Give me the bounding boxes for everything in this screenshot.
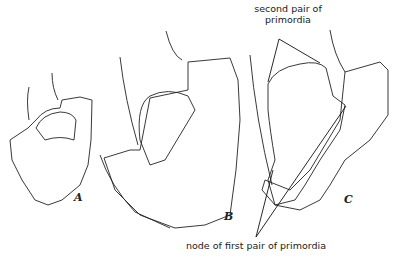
panel-c-drawing	[250, 30, 388, 210]
annotation-second-pair-line1: second pair of	[246, 3, 330, 14]
annotation-second-pair-line2: primordia	[246, 14, 330, 25]
panel-label-c: C	[344, 193, 353, 206]
panel-b-drawing	[100, 31, 240, 228]
annotation-node-first-pair: node of first pair of primordia	[186, 240, 326, 251]
cell-diagram-svg	[0, 0, 393, 256]
botanical-figure: A B C second pair of primordia node of f…	[0, 0, 393, 256]
panel-label-a: A	[74, 191, 83, 204]
panel-label-b: B	[224, 210, 233, 223]
leader-lines	[256, 39, 346, 237]
leader-second-pair	[268, 39, 320, 82]
panel-a-drawing	[10, 73, 92, 205]
annotation-second-pair: second pair of primordia	[246, 3, 330, 25]
